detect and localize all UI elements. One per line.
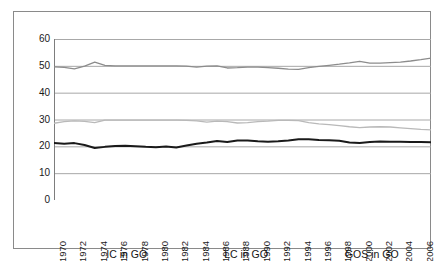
y-tick-label-60: 60	[20, 34, 50, 44]
series-line-ic-in-go	[54, 58, 431, 69]
x-axis: 1970197219741976197819801982198419861988…	[54, 204, 431, 244]
legend-label-gos: GOS in GO	[345, 249, 399, 260]
plot-area	[54, 39, 431, 200]
legend-label-lc: LC in GO	[224, 249, 268, 260]
y-tick-label-40: 40	[20, 88, 50, 98]
legend-label-ic: IC in GO	[106, 249, 147, 260]
y-tick-label-10: 10	[20, 168, 50, 178]
series-line-lc-in-go	[54, 120, 431, 130]
y-tick-label-0: 0	[20, 195, 50, 205]
chart-frame: 0102030405060 19701972197419761978198019…	[13, 11, 431, 249]
legend-item-lc: LC in GO	[191, 249, 268, 260]
legend-item-ic: IC in GO	[73, 249, 147, 260]
y-tick-label-20: 20	[20, 141, 50, 151]
y-axis: 0102030405060	[17, 12, 50, 261]
y-tick-label-30: 30	[20, 115, 50, 125]
chart-screenshot: 0102030405060 19701972197419761978198019…	[0, 0, 444, 261]
plot-svg	[54, 39, 431, 200]
legend-item-gos: GOS in GO	[312, 249, 399, 260]
chart-legend: IC in GO LC in GO GOS in GO	[28, 245, 444, 261]
y-tick-label-50: 50	[20, 61, 50, 71]
